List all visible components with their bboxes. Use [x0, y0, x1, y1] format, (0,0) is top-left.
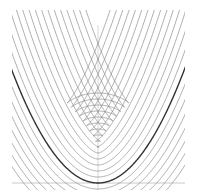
- parabola-parallel-curves-diagram: [0, 0, 197, 196]
- offset-curve: [0, 0, 197, 171]
- offset-curve: [0, 0, 197, 141]
- offset-curve: [0, 0, 197, 153]
- offset-curves: [0, 0, 197, 196]
